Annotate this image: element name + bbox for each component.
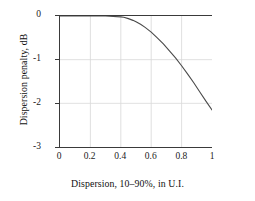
y-tick-label-m1: -1 xyxy=(33,54,41,64)
y-axis-title: Dispersion penalty, dB xyxy=(18,10,29,150)
x-tick-label-0: 0 xyxy=(57,152,62,162)
y-tick-label-m3: -3 xyxy=(33,142,41,152)
y-tickmark xyxy=(55,59,59,60)
chart-figure: 0 -1 -2 -3 0 0.2 0.4 0.6 0.8 1 Dispersio… xyxy=(0,0,255,201)
x-tick-label-04: 0.4 xyxy=(114,152,126,162)
x-tick-label-06: 0.6 xyxy=(145,152,157,162)
y-tickmark xyxy=(55,147,59,148)
x-tick-label-08: 0.8 xyxy=(175,152,187,162)
y-tickmark xyxy=(55,103,59,104)
y-tick-label-0: 0 xyxy=(36,10,41,20)
plot-area xyxy=(59,15,212,148)
y-tickmark xyxy=(55,15,59,16)
dispersion-penalty-curve xyxy=(60,16,212,147)
x-tick-label-1: 1 xyxy=(210,152,215,162)
y-tick-label-m2: -2 xyxy=(33,98,41,108)
x-tick-label-02: 0.2 xyxy=(84,152,96,162)
x-axis-title: Dispersion, 10–90%, in U.I. xyxy=(0,178,255,189)
